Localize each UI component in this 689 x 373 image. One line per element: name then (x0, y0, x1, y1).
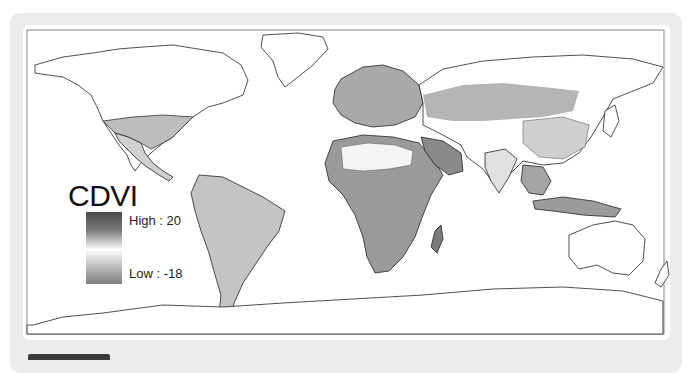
greenland (261, 33, 328, 87)
europe (333, 65, 423, 127)
legend-low-label: Low : -18 (129, 266, 182, 281)
indonesia (533, 197, 621, 217)
legend-title: CDVI (68, 180, 138, 212)
bottom-tab[interactable] (28, 354, 110, 360)
sahara (341, 143, 413, 171)
antarctica (27, 287, 663, 334)
usa-shaded (103, 115, 193, 149)
madagascar (431, 225, 443, 253)
australia (569, 221, 645, 275)
new-zealand (655, 261, 669, 287)
south-america (191, 175, 285, 325)
southeast-asia (521, 165, 551, 195)
legend-high-label: High : 20 (129, 213, 181, 228)
legend-color-ramp (86, 212, 122, 284)
